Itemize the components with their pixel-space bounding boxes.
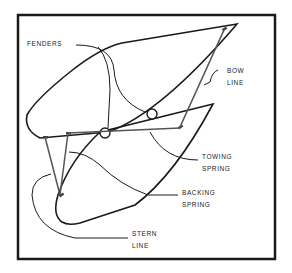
label-bow-line-1: BOW	[227, 67, 245, 74]
label-stern-line-1: STERN	[132, 230, 157, 237]
label-stern-line-2: LINE	[132, 242, 149, 249]
label-towing-spring-1: TOWING	[202, 153, 232, 160]
backing-spring-line	[60, 133, 68, 195]
label-bow-line-2: LINE	[227, 79, 244, 86]
fender-lower	[100, 128, 110, 138]
fender-upper	[147, 109, 157, 119]
label-backing-spring-1: BACKING	[182, 189, 215, 196]
label-fenders: FENDERS	[27, 40, 62, 47]
label-backing-spring-2: SPRING	[182, 201, 211, 208]
fenders-leader	[76, 45, 145, 112]
stern-line-leader	[32, 174, 128, 238]
towing-spring-line	[68, 128, 180, 133]
mooring-diagram: FENDERS BOW LINE TOWING SPRING BACKING S…	[0, 0, 292, 273]
towing-spring-leader	[150, 132, 198, 160]
label-towing-spring-2: SPRING	[202, 165, 231, 172]
stern-line	[45, 137, 60, 195]
bow-line-leader	[204, 70, 218, 85]
backing-spring-leader	[69, 152, 178, 195]
fenders-leader-2	[98, 47, 110, 128]
